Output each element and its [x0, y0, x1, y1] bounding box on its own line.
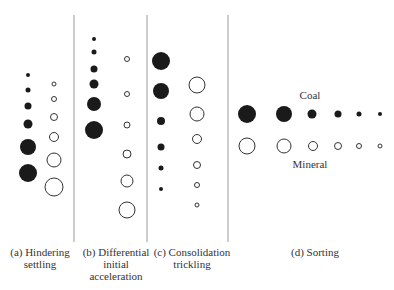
particle-separation-diagram: Coal Mineral (a) Hindering settling (b) …: [0, 0, 394, 290]
caption-a: (a) Hindering settling: [0, 246, 80, 270]
caption-b-line1: (b) Differential: [76, 246, 156, 258]
caption-b-line2: initial: [76, 258, 156, 270]
caption-c-line1: (c) Consolidation: [148, 246, 236, 258]
panel-d-mineral: [239, 138, 382, 154]
panel-c-mineral: [189, 77, 205, 207]
caption-b-line3: acceleration: [76, 270, 156, 282]
panel-b-coal: [85, 37, 103, 139]
coal-label: Coal: [290, 89, 330, 101]
caption-c-line2: trickling: [148, 258, 236, 270]
panel-c-coal: [152, 52, 170, 191]
panel-d-coal: [238, 105, 382, 123]
caption-c: (c) Consolidation trickling: [148, 246, 236, 270]
panel-b-mineral: [119, 57, 135, 219]
caption-a-line1: (a) Hindering: [0, 246, 80, 258]
caption-d-line1: (d) Sorting: [270, 246, 360, 258]
mineral-label: Mineral: [285, 158, 335, 170]
caption-b: (b) Differential initial acceleration: [76, 246, 156, 282]
caption-a-line2: settling: [0, 258, 80, 270]
panel-a-coal: [19, 73, 37, 182]
caption-d: (d) Sorting: [270, 246, 360, 258]
panel-a-mineral: [45, 82, 63, 196]
